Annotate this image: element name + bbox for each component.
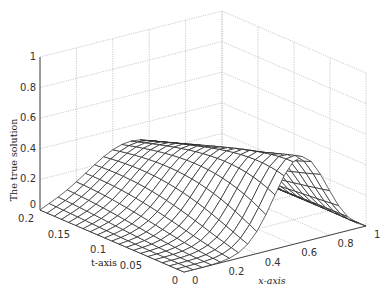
svg-text:0.2: 0.2 — [20, 173, 36, 184]
svg-text:0: 0 — [30, 199, 36, 210]
svg-text:0.6: 0.6 — [301, 247, 317, 258]
svg-text:0.8: 0.8 — [338, 238, 354, 249]
svg-text:1: 1 — [30, 51, 36, 62]
svg-text:0: 0 — [172, 275, 178, 286]
svg-text:0.4: 0.4 — [265, 257, 281, 268]
svg-text:1: 1 — [374, 229, 380, 240]
svg-text:0: 0 — [192, 275, 198, 286]
z-axis-label: The true solution — [8, 119, 19, 202]
surface-plot: 00.20.40.60.8100.050.10.150.200.20.40.60… — [0, 0, 386, 294]
t-axis-label: t-axis — [91, 257, 117, 268]
x-axis-label: x-axis — [258, 275, 285, 286]
svg-text:0.2: 0.2 — [18, 213, 34, 224]
svg-text:0.8: 0.8 — [20, 82, 36, 93]
svg-text:0.6: 0.6 — [20, 112, 36, 123]
svg-text:0.1: 0.1 — [90, 244, 106, 255]
svg-text:0.05: 0.05 — [120, 260, 142, 271]
svg-text:0.4: 0.4 — [20, 143, 36, 154]
svg-text:0.15: 0.15 — [48, 229, 70, 240]
svg-text:0.2: 0.2 — [228, 266, 244, 277]
